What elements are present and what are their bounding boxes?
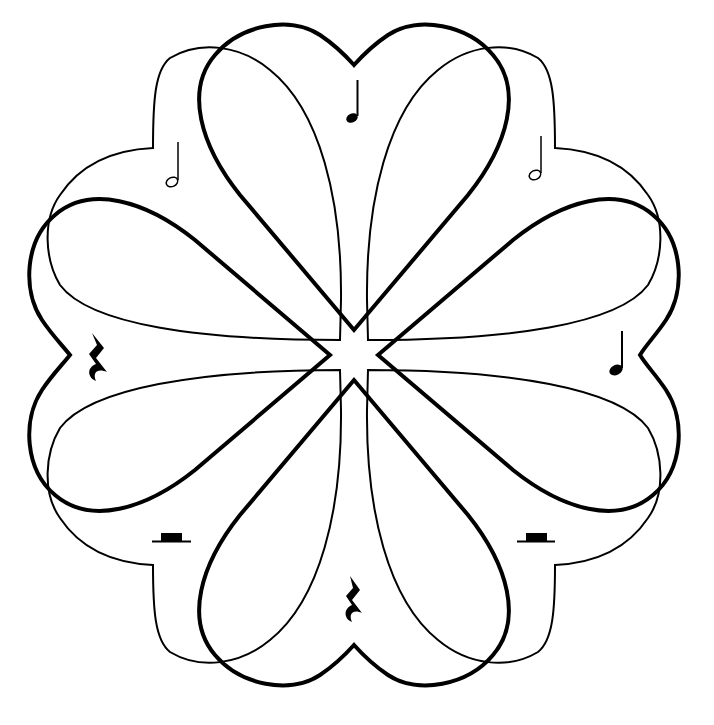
music-symbols-layer (89, 80, 624, 622)
half-note-icon (528, 136, 543, 182)
quarter-note-icon (608, 331, 625, 377)
quarter-rest-icon (89, 333, 107, 381)
half-rest-icon (517, 533, 555, 542)
thin-heart-lower-left (48, 370, 341, 663)
quarter-note-icon (345, 80, 360, 125)
thin-heart-upper-right (367, 47, 660, 340)
mandala-svg (0, 0, 714, 725)
thin-hearts-layer (48, 47, 661, 663)
thin-heart-lower-right (367, 370, 660, 663)
mandala-artwork: Musical hearts mandala (0, 0, 714, 725)
half-note-icon (165, 142, 180, 189)
quarter-rest-icon (346, 576, 362, 622)
half-rest-icon (152, 533, 191, 542)
thin-heart-upper-left (48, 47, 341, 340)
